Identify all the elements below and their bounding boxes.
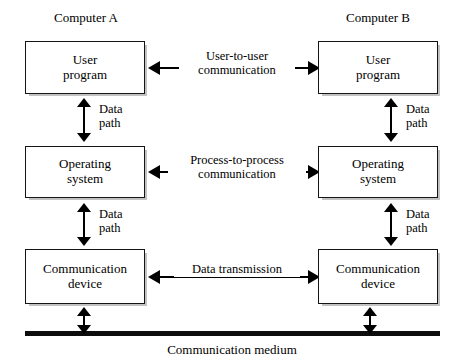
caption-left-data-path-upper: Data path <box>99 103 155 131</box>
arrow-left-data-path-lower <box>77 203 91 246</box>
arrowhead-down-icon <box>384 133 398 142</box>
arrowhead-down-icon <box>77 237 91 246</box>
box-right-user-program[interactable]: User program <box>318 41 438 94</box>
box-right-operating-system-label: Operating system <box>350 157 406 186</box>
caption-communication-medium: Communication medium <box>0 342 464 358</box>
box-left-user-program-label: User program <box>61 53 109 82</box>
arrow-shaft <box>83 105 85 135</box>
column-heading-computer-b: Computer B <box>318 10 438 26</box>
caption-user-to-user-communication: User-to-user communication <box>179 50 295 78</box>
box-right-communication-device[interactable]: Communication device <box>318 249 438 304</box>
arrow-shaft <box>390 210 392 239</box>
box-left-communication-device[interactable]: Communication device <box>25 249 145 304</box>
arrow-right-data-path-upper <box>384 98 398 142</box>
caption-process-to-process-communication: Process-to-process communication <box>168 154 306 182</box>
arrowhead-down-icon <box>77 133 91 142</box>
arrowhead-down-icon <box>77 325 91 334</box>
arrowhead-down-icon <box>363 325 377 334</box>
box-right-user-program-label: User program <box>354 53 402 82</box>
caption-data-transmission: Data transmission <box>174 263 300 277</box>
arrow-shaft <box>390 105 392 135</box>
caption-left-data-path-lower: Data path <box>99 208 155 236</box>
arrowhead-down-icon <box>384 237 398 246</box>
caption-right-data-path-upper: Data path <box>406 103 462 131</box>
arrow-left-device-to-medium <box>77 307 91 334</box>
box-left-communication-device-label: Communication device <box>41 262 129 291</box>
arrow-left-data-path-upper <box>77 98 91 142</box>
arrow-right-device-to-medium <box>363 307 377 334</box>
caption-right-data-path-lower: Data path <box>406 208 462 236</box>
column-heading-computer-a: Computer A <box>25 10 147 26</box>
box-right-operating-system[interactable]: Operating system <box>318 146 438 198</box>
box-left-operating-system-label: Operating system <box>57 157 113 186</box>
arrow-shaft <box>83 210 85 239</box>
box-left-operating-system[interactable]: Operating system <box>25 146 145 198</box>
box-right-communication-device-label: Communication device <box>334 262 422 291</box>
box-left-user-program[interactable]: User program <box>25 41 145 94</box>
arrow-right-data-path-lower <box>384 203 398 246</box>
communications-architecture-diagram: Computer A Computer B User program User … <box>0 0 464 360</box>
